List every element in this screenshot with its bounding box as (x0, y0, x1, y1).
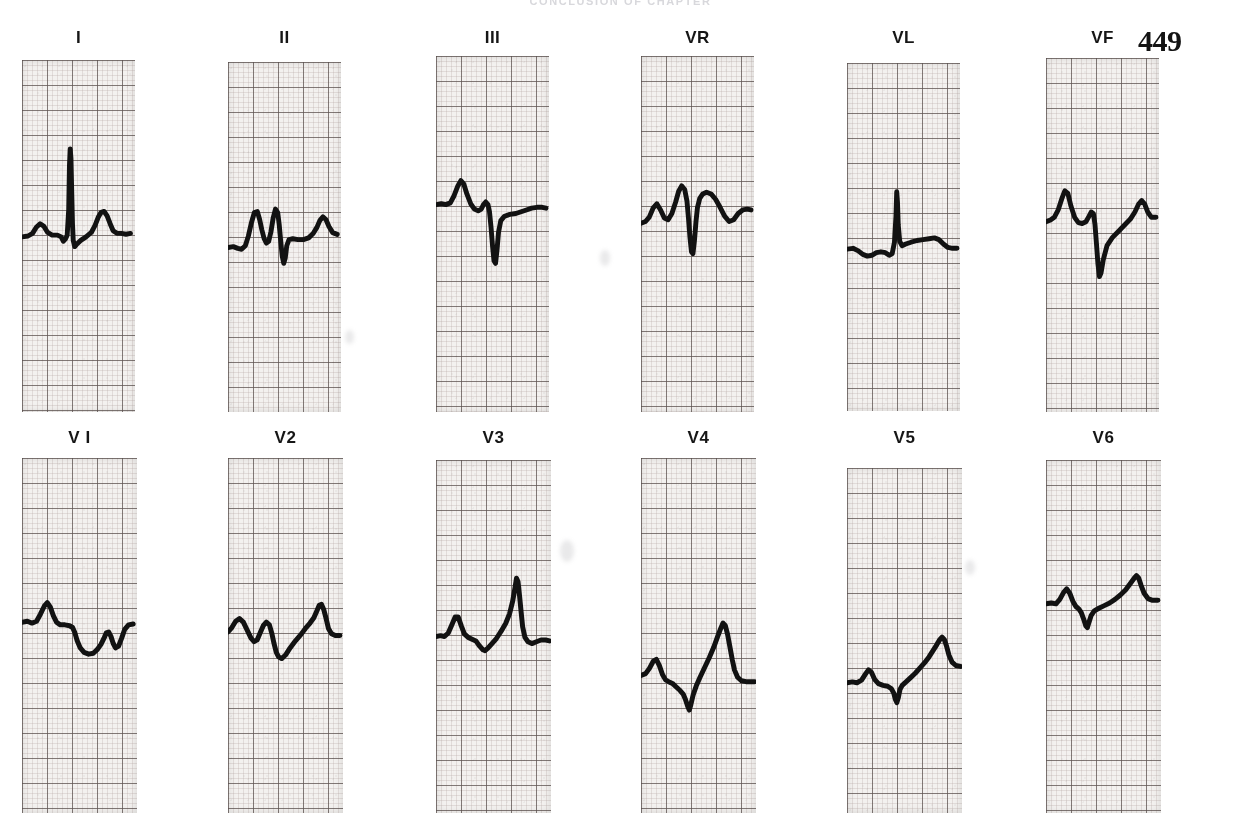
lead-label: II (228, 28, 341, 48)
lead-label: VR (641, 28, 754, 48)
ecg-strip (22, 60, 135, 412)
ecg-strip (847, 468, 962, 813)
lead-label: V I (22, 428, 137, 448)
scan-smudge (345, 330, 354, 344)
ecg-strip (641, 458, 756, 813)
ecg-strip (1046, 58, 1159, 412)
lead-label: III (436, 28, 549, 48)
lead-label: V6 (1046, 428, 1161, 448)
scan-smudge (965, 560, 975, 575)
ecg-strip (228, 458, 343, 813)
lead-label: I (22, 28, 135, 48)
ecg-strip (436, 56, 549, 412)
lead-label: VF (1046, 28, 1159, 48)
lead-label: V3 (436, 428, 551, 448)
lead-label: V5 (847, 428, 962, 448)
lead-label: V2 (228, 428, 343, 448)
ecg-strip (436, 460, 551, 813)
scan-smudge (600, 250, 610, 266)
ecg-strip (22, 458, 137, 813)
lead-label: V4 (641, 428, 756, 448)
scan-smudge (560, 540, 574, 562)
running-head: CONCLUSION OF CHAPTER (0, 0, 1241, 6)
ecg-strip (1046, 460, 1161, 813)
ecg-strip (228, 62, 341, 412)
lead-label: VL (847, 28, 960, 48)
ecg-strip (847, 63, 960, 411)
ecg-strip (641, 56, 754, 412)
